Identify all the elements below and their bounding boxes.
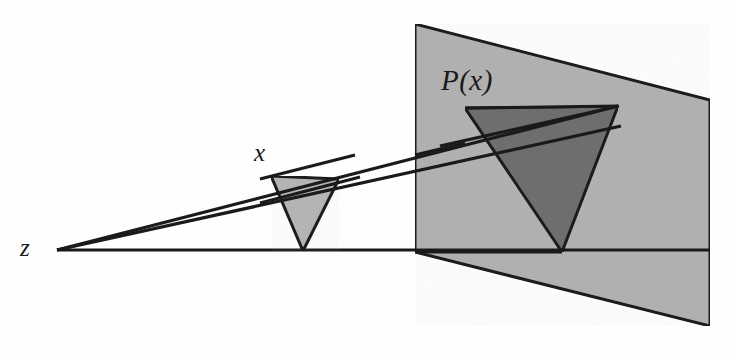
source-triangle-label: x [254, 140, 265, 165]
projected-triangle-label: P(x) [441, 66, 493, 95]
ray-upper-over-source [260, 155, 355, 179]
projection-figure: z x P(x) [0, 0, 733, 354]
projected-triangle-top-edge [465, 106, 618, 108]
eye-point-label: z [20, 235, 30, 260]
figure-canvas [0, 0, 733, 354]
